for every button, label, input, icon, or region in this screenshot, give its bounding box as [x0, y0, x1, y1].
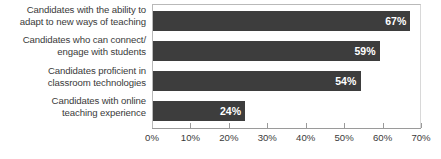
x-axis: 0%10%20%30%40%50%60%70% — [152, 128, 421, 159]
category-label: Candidates who can connect/ engage with … — [0, 34, 146, 59]
category-label-line: engage with students — [0, 46, 146, 58]
category-label-line: Candidates with online — [0, 95, 146, 107]
x-axis-tick-label: 70% — [411, 132, 430, 143]
category-label-line: Candidates with the ability to — [0, 4, 146, 16]
x-axis-tick-label: 10% — [181, 132, 200, 143]
x-axis-tick — [421, 123, 422, 128]
bar-value-label: 54% — [335, 76, 356, 87]
x-axis-tick-label: 20% — [219, 132, 238, 143]
bar-value-label: 24% — [220, 106, 241, 117]
x-axis-tick-label: 50% — [335, 132, 354, 143]
bar-value-label: 59% — [354, 46, 375, 57]
category-label-line: classroom technologies — [0, 77, 146, 89]
x-axis-tick — [229, 123, 230, 128]
x-axis-tick — [306, 123, 307, 128]
x-axis-tick-label: 40% — [296, 132, 315, 143]
bar: 59% — [153, 41, 380, 61]
x-axis-tick-label: 0% — [145, 132, 159, 143]
bar: 54% — [153, 71, 361, 91]
category-label-line: Candidates who can connect/ — [0, 34, 146, 46]
bar: 24% — [153, 101, 245, 121]
bar-value-label: 67% — [385, 16, 406, 27]
category-label: Candidates proficient in classroom techn… — [0, 65, 146, 90]
category-label-line: Candidates proficient in — [0, 65, 146, 77]
x-axis-tick-label: 60% — [373, 132, 392, 143]
x-axis-tick — [267, 123, 268, 128]
bars-layer: 67% 59% 54% 24% — [153, 5, 420, 128]
category-label-line: adapt to new ways of teaching — [0, 16, 146, 28]
x-axis-tick — [383, 123, 384, 128]
category-label-line: teaching experience — [0, 107, 146, 119]
x-axis-tick — [190, 123, 191, 128]
x-axis-tick-label: 30% — [258, 132, 277, 143]
bar: 67% — [153, 11, 410, 31]
horizontal-bar-chart: Candidates with the ability to adapt to … — [0, 0, 441, 159]
category-axis-labels: Candidates with the ability to adapt to … — [0, 0, 146, 125]
category-label: Candidates with the ability to adapt to … — [0, 4, 146, 29]
plot-area: 67% 59% 54% 24% — [152, 4, 421, 128]
category-label: Candidates with online teaching experien… — [0, 95, 146, 120]
x-axis-tick — [344, 123, 345, 128]
x-axis-line — [152, 128, 421, 129]
